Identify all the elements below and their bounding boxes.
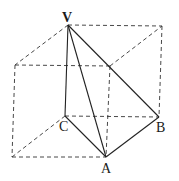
edge-TL-TF xyxy=(15,65,110,66)
edge-TR-B xyxy=(159,26,162,117)
label-C: C xyxy=(59,119,68,134)
edge-V-C xyxy=(65,25,68,116)
edge-TF-TR xyxy=(110,26,162,66)
label-V: V xyxy=(62,10,72,25)
edge-V-TL xyxy=(15,25,68,65)
solid-tetrahedron-edges xyxy=(65,25,159,157)
edge-TL-BL xyxy=(12,65,15,157)
tetrahedron-in-cube-diagram: V C B A xyxy=(0,0,179,181)
edge-A-B xyxy=(106,117,159,157)
label-A: A xyxy=(101,161,112,176)
edge-TF-A xyxy=(106,66,110,157)
vertex-labels: V C B A xyxy=(59,10,165,176)
label-B: B xyxy=(156,120,165,135)
edge-C-BL xyxy=(12,116,65,157)
edge-V-TR xyxy=(68,25,162,26)
edge-C-B xyxy=(65,116,159,117)
